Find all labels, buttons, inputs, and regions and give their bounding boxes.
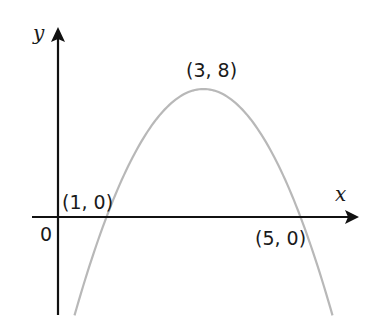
parabola-curve: [74, 89, 332, 315]
x-axis-label: x: [335, 182, 346, 206]
vertex-label: (3, 8): [186, 59, 237, 81]
y-axis-label: y: [32, 21, 45, 45]
parabola-diagram: y x 0 (3, 8) (1, 0) (5, 0): [0, 0, 374, 331]
right-root-label: (5, 0): [255, 227, 306, 249]
left-root-label: (1, 0): [62, 191, 113, 213]
origin-label: 0: [40, 223, 52, 245]
